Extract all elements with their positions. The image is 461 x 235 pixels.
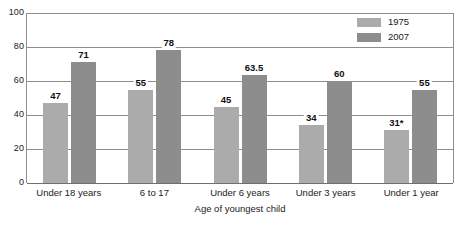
x-axis-category-labels: Under 18 years 6 to 17 Under 6 years Und… (26, 186, 454, 202)
bar-wrapper-2007: 63.5 (242, 13, 267, 183)
y-axis-tick-labels: 100 80 60 40 20 0 (0, 0, 24, 190)
bar-wrapper-2007: 78 (156, 13, 181, 183)
y-axis-tick-label: 20 (0, 144, 24, 153)
bar-value-label: 60 (332, 69, 347, 79)
bar-1975[interactable] (214, 107, 239, 184)
bar-group-bars: 55 78 (112, 13, 197, 183)
legend-swatch-2007-icon (357, 33, 381, 42)
x-axis-category-label: Under 3 years (283, 186, 369, 202)
legend-label-2007: 2007 (388, 32, 409, 42)
bar-2007[interactable] (242, 75, 267, 183)
bar-wrapper-1975: 45 (214, 13, 239, 183)
x-axis-title: Age of youngest child (26, 203, 454, 215)
bar-2007[interactable] (412, 90, 437, 184)
legend-item-1975[interactable]: 1975 (357, 16, 435, 28)
y-axis-tick-label: 100 (0, 8, 24, 17)
legend-swatch-1975-icon (357, 18, 381, 27)
y-axis-tick-label: 0 (0, 178, 24, 187)
legend-item-2007[interactable]: 2007 (357, 31, 435, 43)
bar-value-label: 47 (48, 91, 63, 101)
bar-value-label: 78 (162, 38, 177, 48)
bar-group-bars: 34 60 (283, 13, 368, 183)
bar-1975[interactable] (43, 103, 68, 183)
legend-label-1975: 1975 (388, 17, 409, 27)
x-axis-category-label: 6 to 17 (112, 186, 198, 202)
bar-group: 55 78 (112, 13, 197, 183)
plot-area: 47 71 55 78 (26, 13, 454, 183)
bar-wrapper-2007: 60 (327, 13, 352, 183)
bar-group: 34 60 (283, 13, 368, 183)
bar-value-label: 34 (304, 113, 319, 123)
bar-wrapper-1975: 47 (43, 13, 68, 183)
y-axis-tick-label: 60 (0, 76, 24, 85)
bar-group-bars: 45 63.5 (197, 13, 282, 183)
bar-group-bars: 47 71 (27, 13, 112, 183)
bar-value-label: 63.5 (243, 63, 266, 73)
bar-group: 45 63.5 (197, 13, 282, 183)
bar-1975[interactable] (384, 130, 409, 183)
x-axis-line (27, 183, 453, 184)
bar-group: 47 71 (27, 13, 112, 183)
x-axis-category-label: Under 1 year (368, 186, 454, 202)
bar-value-label: 45 (219, 95, 234, 105)
bar-2007[interactable] (327, 81, 352, 183)
bar-2007[interactable] (156, 50, 181, 183)
bar-value-label: 31* (387, 118, 405, 128)
bar-2007[interactable] (71, 62, 96, 183)
bar-wrapper-2007: 71 (71, 13, 96, 183)
bar-value-label: 71 (76, 50, 91, 60)
bar-chart: 100 80 60 40 20 0 47 71 (0, 0, 461, 235)
bar-wrapper-1975: 55 (128, 13, 153, 183)
bar-1975[interactable] (299, 125, 324, 183)
legend: 1975 2007 (357, 16, 435, 46)
bar-wrapper-1975: 34 (299, 13, 324, 183)
bar-1975[interactable] (128, 90, 153, 184)
bar-value-label: 55 (417, 78, 432, 88)
x-axis-category-label: Under 6 years (197, 186, 283, 202)
x-axis-category-label: Under 18 years (26, 186, 112, 202)
bar-value-label: 55 (134, 78, 149, 88)
y-axis-tick-label: 80 (0, 42, 24, 51)
y-axis-tick-label: 40 (0, 110, 24, 119)
